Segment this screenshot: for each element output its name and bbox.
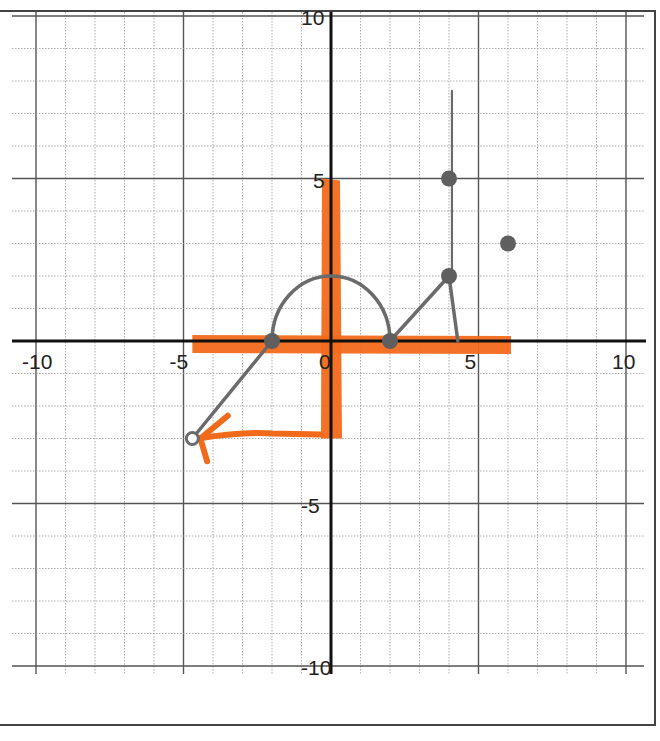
closed-point	[441, 171, 457, 187]
graph-points	[186, 171, 516, 445]
closed-point	[382, 333, 398, 349]
x-tick-label: -5	[170, 350, 189, 373]
y-tick-label: -5	[301, 494, 320, 517]
x-tick-label: -10	[22, 350, 52, 373]
closed-point	[441, 268, 457, 284]
y-tick-label: 10	[301, 6, 324, 29]
x-tick-label: 10	[612, 350, 635, 373]
closed-point	[264, 333, 280, 349]
orange-highlights	[192, 179, 511, 462]
x-tick-label: 0	[319, 350, 331, 373]
y-tick-label: 5	[313, 169, 325, 192]
arrow-shaft	[198, 433, 321, 438]
y-tick-label: -10	[301, 656, 331, 679]
graph-segment	[192, 341, 272, 439]
open-point	[186, 433, 198, 445]
x-tick-label: 5	[465, 350, 477, 373]
closed-point	[500, 236, 516, 252]
coordinate-plane: -10-50510105-5-10	[0, 0, 660, 741]
domain-highlight	[192, 335, 511, 354]
